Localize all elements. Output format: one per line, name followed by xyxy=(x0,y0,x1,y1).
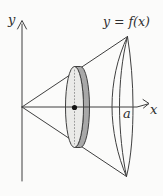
function-curve-label: y = f(x) xyxy=(103,15,150,29)
diagram-canvas xyxy=(0,0,163,196)
y-axis-label: y xyxy=(8,13,15,27)
disk-center-dot xyxy=(72,105,77,110)
x-axis-arrowhead xyxy=(143,100,149,109)
cone-of-revolution-diagram: y y = f(x) a x xyxy=(0,0,163,196)
base-radius-label: a xyxy=(123,107,131,121)
x-axis-label: x xyxy=(150,103,157,117)
line-art-group xyxy=(18,21,150,182)
